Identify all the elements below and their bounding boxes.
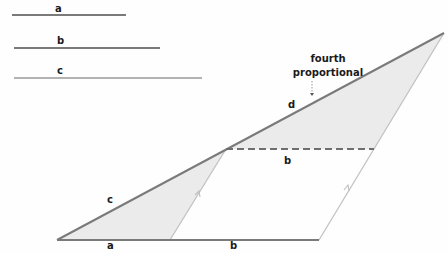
- segment-c-label: c: [57, 65, 63, 76]
- annotation-proportional: proportional: [293, 67, 363, 78]
- label-c-side: c: [107, 194, 113, 205]
- diagram-canvas: a b c c d a b b fourth proportional: [0, 0, 448, 253]
- construction-svg: a b c c d a b b fourth proportional: [0, 0, 448, 253]
- label-a-base: a: [107, 240, 114, 251]
- label-d-side: d: [288, 99, 295, 110]
- annotation-fourth: fourth: [310, 53, 345, 64]
- segment-a-label: a: [55, 3, 62, 14]
- hypotenuse-line: [57, 33, 444, 240]
- parallel-arrow-2-icon: [344, 185, 349, 191]
- annotation-pointer-arrow-icon: [310, 93, 314, 96]
- label-b-dashed: b: [284, 155, 291, 166]
- segment-b-label: b: [57, 35, 64, 46]
- label-b-base: b: [230, 240, 237, 251]
- reference-segments: a b c: [12, 3, 202, 78]
